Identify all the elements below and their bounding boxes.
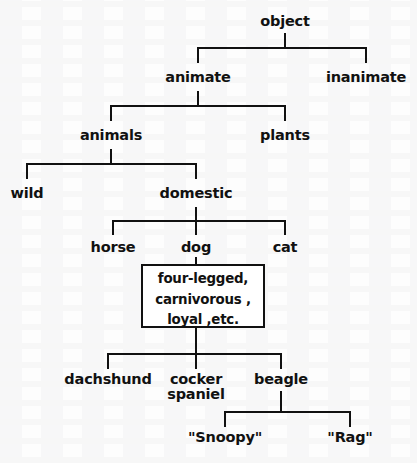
edge-breeds-to-dachshund [107,353,109,369]
property-line-3: loyal ,etc. [143,310,263,331]
edge-beagle-stem [280,391,282,411]
node-plants: plants [260,128,310,144]
node-cat: cat [273,240,298,256]
edge-domestic-to-cat [284,220,286,235]
edge-animate-stem [197,91,199,105]
node-beagle: beagle [254,372,308,388]
edge-animals-to-domestic [195,163,197,179]
node-domestic: domestic [160,186,233,202]
node-wild: wild [11,186,44,202]
edge-animals-to-wild [26,163,28,179]
node-horse: horse [91,240,136,256]
node-inanimate: inanimate [326,70,406,86]
semantic-network-diagram: object animate inanimate animals plants … [0,0,417,463]
node-dog: dog [181,240,211,256]
edge-domestic-to-horse [112,220,114,235]
property-line-2: carnivorous , [143,290,263,311]
edge-animate-to-animals [110,105,112,121]
edge-object-stem [284,33,286,47]
node-rag: "Rag" [327,430,372,446]
node-object: object [260,14,309,30]
edge-domestic-bar [112,220,286,222]
node-cocker-spaniel: cocker spaniel [157,372,235,402]
property-line-1: four-legged, [143,269,263,290]
edge-properties-stem [195,328,197,353]
edge-beagle-to-rag [349,411,351,427]
node-dachshund: dachshund [64,372,151,388]
edge-object-to-animate [197,47,199,63]
edge-object-to-inanimate [365,47,367,63]
node-snoopy: "Snoopy" [188,430,262,446]
edge-instances-bar [224,411,351,413]
node-animate: animate [165,70,230,86]
node-animals: animals [80,128,142,144]
dog-properties-box: four-legged, carnivorous , loyal ,etc. [141,264,265,328]
edge-animals-stem [110,149,112,163]
edge-breeds-to-beagle [280,353,282,369]
edge-domestic-to-dog [195,220,197,235]
edge-domestic-stem [195,207,197,220]
edge-animals-bar [26,163,197,165]
edge-object-bar [197,47,367,49]
edge-beagle-to-snoopy [224,411,226,427]
edge-animate-to-plants [284,105,286,121]
edge-animate-bar [110,105,286,107]
edge-breeds-to-cocker-spaniel [195,353,197,369]
